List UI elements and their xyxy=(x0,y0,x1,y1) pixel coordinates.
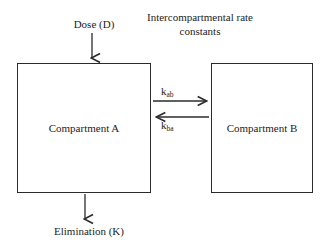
intercompartmental-rate-constants-label: Intercompartmental rate constants xyxy=(138,10,262,38)
two-compartment-model-diagram: Dose (D) Intercompartmental rate constan… xyxy=(0,0,323,248)
rate-constant-kba-label: kba xyxy=(161,119,174,131)
compartment-b-box: Compartment B xyxy=(211,63,313,193)
kab-subscript: ab xyxy=(167,90,174,99)
compartment-b-label: Compartment B xyxy=(227,122,298,134)
rate-constant-kab-label: kab xyxy=(161,85,174,97)
elimination-label: Elimination (K) xyxy=(26,225,152,238)
dose-label: Dose (D) xyxy=(60,18,128,31)
compartment-a-label: Compartment A xyxy=(49,122,120,134)
kab-symbol: k xyxy=(161,85,167,97)
compartment-a-box: Compartment A xyxy=(17,63,151,193)
kba-symbol: k xyxy=(161,119,167,131)
kba-subscript: ba xyxy=(167,124,174,133)
